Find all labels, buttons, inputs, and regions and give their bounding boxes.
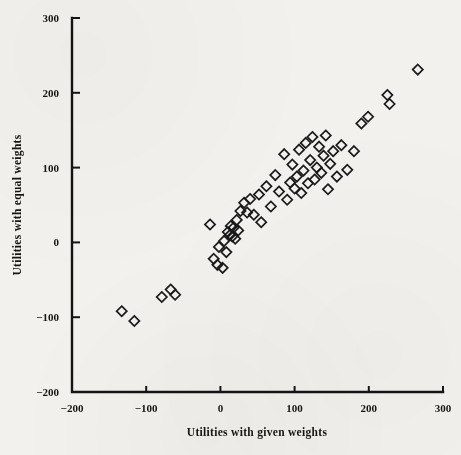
y-tick-label: −200 <box>36 386 59 398</box>
data-point-marker <box>282 195 292 205</box>
x-tick-label: −100 <box>135 402 158 414</box>
data-point-marker <box>382 90 392 100</box>
x-tick-label: 100 <box>286 402 303 414</box>
data-point-marker <box>384 99 394 109</box>
axes-group <box>71 18 443 393</box>
y-tick-label: 100 <box>43 162 60 174</box>
data-point-marker <box>256 217 266 227</box>
plot-canvas: −200−1000100200300 −200−1000100200300 Ut… <box>0 0 461 455</box>
data-point-marker <box>305 155 315 165</box>
x-axis-title: Utilities with given weights <box>187 426 328 439</box>
x-tick-label: 0 <box>218 402 224 414</box>
data-point-marker <box>261 181 271 191</box>
data-point-marker <box>413 65 423 75</box>
y-axis-tick-labels: −200−1000100200300 <box>36 12 59 398</box>
y-tick-label: 200 <box>43 87 60 99</box>
x-axis-tick-labels: −200−1000100200300 <box>61 402 452 414</box>
data-point-marker <box>349 146 359 156</box>
data-point-marker <box>328 146 338 156</box>
axis-lines <box>72 18 443 392</box>
data-point-marker <box>266 201 276 211</box>
data-point-marker <box>117 306 127 316</box>
data-point-marker <box>157 292 167 302</box>
data-point-marker <box>325 159 335 169</box>
data-point-marker <box>279 149 289 159</box>
data-points-group <box>117 65 423 327</box>
data-point-marker <box>303 178 313 188</box>
data-point-marker <box>274 186 284 196</box>
data-point-marker <box>205 219 215 229</box>
data-point-marker <box>321 130 331 140</box>
data-point-marker <box>323 184 333 194</box>
data-point-marker <box>287 160 297 170</box>
x-tick-label: 200 <box>361 402 378 414</box>
scatter-plot-figure: −200−1000100200300 −200−1000100200300 Ut… <box>0 0 461 455</box>
y-axis-title: Utilities with equal weights <box>11 134 24 275</box>
data-point-marker <box>129 316 139 326</box>
y-tick-label: 300 <box>43 12 60 24</box>
data-point-marker <box>332 171 342 181</box>
y-tick-label: −100 <box>36 311 59 323</box>
x-tick-label: 300 <box>435 402 452 414</box>
x-tick-label: −200 <box>61 402 84 414</box>
data-point-marker <box>336 140 346 150</box>
y-tick-label: 0 <box>54 236 60 248</box>
data-point-marker <box>270 170 280 180</box>
data-point-marker <box>342 165 352 175</box>
